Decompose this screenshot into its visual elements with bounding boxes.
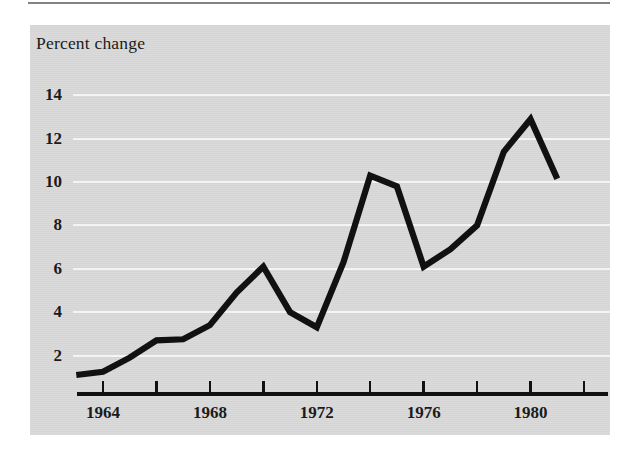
x-axis-tick-label: 1980 xyxy=(496,404,566,421)
x-axis-line xyxy=(77,392,608,396)
x-axis-tick xyxy=(316,381,319,392)
x-axis-tick-label: 1972 xyxy=(282,404,352,421)
series-line-percent-change xyxy=(76,119,557,375)
x-axis-tick xyxy=(209,381,212,392)
x-axis-tick xyxy=(422,381,425,392)
x-axis-tick xyxy=(102,381,105,392)
x-axis-tick xyxy=(529,381,532,392)
x-axis-tick xyxy=(476,381,479,392)
x-axis-tick-label: 1976 xyxy=(389,404,459,421)
x-axis-tick xyxy=(155,381,158,392)
x-axis-tick xyxy=(369,381,372,392)
chart-figure: 1412108642 Percent change 19641968197219… xyxy=(0,0,627,454)
x-axis-tick-label: 1968 xyxy=(175,404,245,421)
x-axis-tick-label: 1964 xyxy=(68,404,138,421)
x-axis-tick xyxy=(262,381,265,392)
x-axis-tick xyxy=(583,381,586,392)
series-line-group xyxy=(0,0,627,454)
